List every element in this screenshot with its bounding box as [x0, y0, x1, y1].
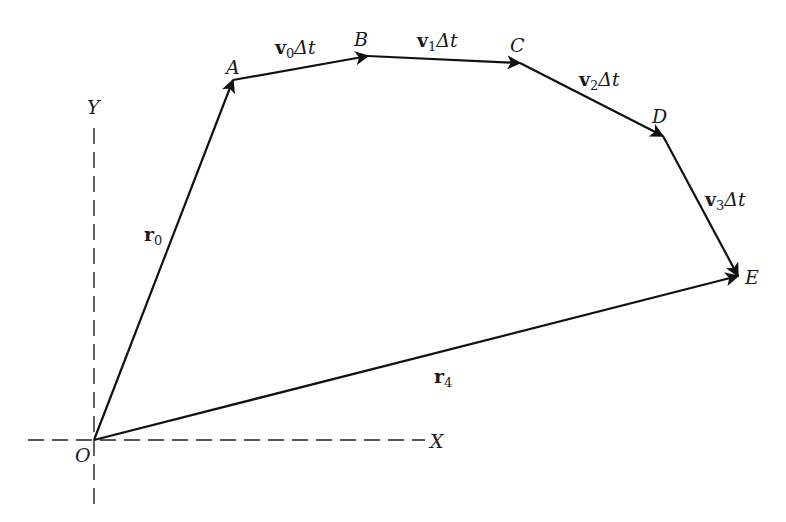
vector-v1dt: [368, 56, 520, 63]
vector-label-v3dt: v3Δt: [705, 190, 746, 212]
y-axis-label: Y: [87, 98, 100, 117]
origin-label: O: [75, 446, 91, 465]
point-label-d: D: [652, 107, 667, 126]
vector-label-r4: r4: [434, 367, 452, 389]
point-label-b: B: [354, 30, 368, 49]
diagram-svg: [0, 0, 786, 522]
vector-r4: [94, 276, 738, 440]
vector-diagram: Y X O A B C D E r0 v0Δt v1Δt v2Δt v3Δt r…: [0, 0, 786, 522]
point-label-e: E: [745, 268, 759, 287]
vector-label-v1dt: v1Δt: [417, 31, 458, 53]
point-label-a: A: [226, 58, 240, 77]
x-axis-label: X: [430, 432, 444, 451]
vector-r0: [94, 80, 233, 440]
vector-label-v2dt: v2Δt: [579, 70, 620, 92]
vector-label-r0: r0: [144, 225, 162, 247]
vector-label-v0dt: v0Δt: [275, 38, 316, 60]
point-label-c: C: [510, 36, 525, 55]
